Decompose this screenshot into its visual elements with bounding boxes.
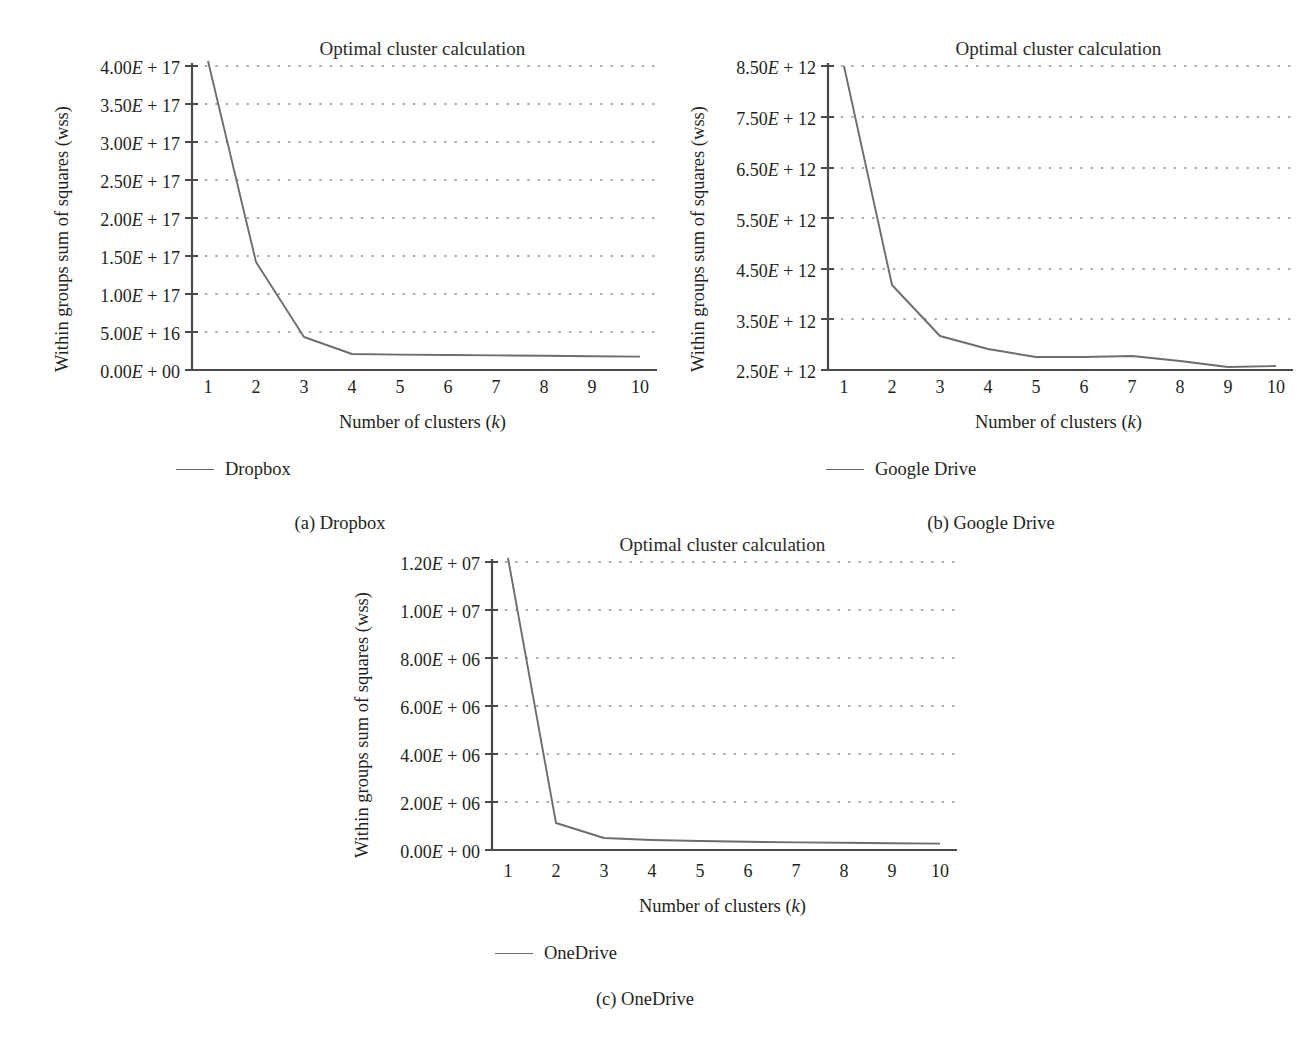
y-tick-label: 3.00E + 17 xyxy=(75,135,180,153)
x-tick-label: 1 xyxy=(824,378,864,396)
y-tick-label: 2.50E + 17 xyxy=(75,173,180,191)
y-tick-label: 3.50E + 17 xyxy=(75,97,180,115)
legend-line-swatch-icon xyxy=(826,469,864,470)
chart-title-dropbox: Optimal cluster calculation xyxy=(190,38,655,60)
y-tick-label: 2.00E + 17 xyxy=(75,211,180,229)
x-tick-label: 8 xyxy=(524,378,564,396)
y-tick-label: 4.50E + 12 xyxy=(711,262,816,280)
x-axis-title-variable: k xyxy=(1128,412,1136,432)
y-tick-label: 5.00E + 16 xyxy=(75,325,180,343)
y-tick-label: 2.50E + 12 xyxy=(711,363,816,381)
x-tick-label: 10 xyxy=(920,862,960,880)
x-tick-label: 9 xyxy=(872,862,912,880)
y-tick-label: 1.50E + 17 xyxy=(75,249,180,267)
x-axis-title-prefix: Number of clusters ( xyxy=(975,412,1128,432)
y-axis-title-google-drive: Within groups sum of squares (wss) xyxy=(688,106,709,372)
legend-onedrive: OneDrive xyxy=(495,943,617,964)
x-tick-label: 2 xyxy=(236,378,276,396)
x-tick-label: 2 xyxy=(872,378,912,396)
x-axis-title-google-drive: Number of clusters (k) xyxy=(826,412,1291,433)
legend-google-drive: Google Drive xyxy=(826,459,976,480)
x-tick-label: 4 xyxy=(632,862,672,880)
x-tick-label: 7 xyxy=(1112,378,1152,396)
x-axis-title-onedrive: Number of clusters (k) xyxy=(490,896,955,917)
y-tick-label: 4.00E + 17 xyxy=(75,59,180,77)
x-axis-title-suffix: ) xyxy=(1136,412,1142,432)
chart-title-google-drive: Optimal cluster calculation xyxy=(826,38,1291,60)
y-tick-label: 8.50E + 12 xyxy=(711,59,816,77)
y-tick-label: 1.00E + 17 xyxy=(75,287,180,305)
x-tick-label: 9 xyxy=(572,378,612,396)
y-tick-label: 5.50E + 12 xyxy=(711,212,816,230)
x-axis-title-suffix: ) xyxy=(500,412,506,432)
x-tick-label: 4 xyxy=(968,378,1008,396)
x-axis-title-suffix: ) xyxy=(800,896,806,916)
y-tick-label: 0.00E + 00 xyxy=(375,843,480,861)
y-axis-title-dropbox: Within groups sum of squares (wss) xyxy=(52,106,73,372)
x-tick-label: 8 xyxy=(1160,378,1200,396)
x-tick-label: 7 xyxy=(776,862,816,880)
x-tick-label: 5 xyxy=(1016,378,1056,396)
y-tick-label: 6.50E + 12 xyxy=(711,161,816,179)
x-axis-title-variable: k xyxy=(792,896,800,916)
x-tick-label: 1 xyxy=(488,862,528,880)
panel-onedrive: Optimal cluster calculation Within group… xyxy=(300,500,980,1040)
y-tick-label: 6.00E + 06 xyxy=(375,699,480,717)
chart-title-onedrive: Optimal cluster calculation xyxy=(490,534,955,556)
x-tick-label: 8 xyxy=(824,862,864,880)
x-tick-label: 5 xyxy=(680,862,720,880)
x-tick-label: 4 xyxy=(332,378,372,396)
x-tick-label: 2 xyxy=(536,862,576,880)
x-tick-label: 1 xyxy=(188,378,228,396)
y-tick-label: 8.00E + 06 xyxy=(375,651,480,669)
x-tick-label: 5 xyxy=(380,378,420,396)
panel-caption-onedrive: (c) OneDrive xyxy=(490,989,800,1010)
panel-google-drive: Optimal cluster calculation Within group… xyxy=(636,0,1316,530)
y-tick-label: 7.50E + 12 xyxy=(711,110,816,128)
x-tick-label: 3 xyxy=(284,378,324,396)
legend-label: Google Drive xyxy=(875,459,976,480)
legend-dropbox: Dropbox xyxy=(176,459,291,480)
plot-area-dropbox xyxy=(185,58,660,383)
x-tick-label: 7 xyxy=(476,378,516,396)
y-tick-label: 3.50E + 12 xyxy=(711,313,816,331)
x-tick-label: 6 xyxy=(728,862,768,880)
legend-line-swatch-icon xyxy=(176,469,214,470)
y-tick-label: 1.20E + 07 xyxy=(375,555,480,573)
legend-label: OneDrive xyxy=(544,943,617,964)
x-axis-title-variable: k xyxy=(492,412,500,432)
x-tick-label: 3 xyxy=(920,378,960,396)
x-tick-label: 6 xyxy=(428,378,468,396)
legend-label: Dropbox xyxy=(225,459,291,480)
plot-area-google-drive xyxy=(821,58,1296,383)
plot-area-onedrive xyxy=(485,554,960,864)
legend-line-swatch-icon xyxy=(495,953,533,954)
y-tick-label: 1.00E + 07 xyxy=(375,603,480,621)
y-tick-label: 4.00E + 06 xyxy=(375,747,480,765)
x-axis-title-prefix: Number of clusters ( xyxy=(639,896,792,916)
y-tick-label: 2.00E + 06 xyxy=(375,795,480,813)
x-tick-label: 9 xyxy=(1208,378,1248,396)
y-axis-title-onedrive: Within groups sum of squares (wss) xyxy=(352,592,373,858)
y-tick-label: 0.00E + 00 xyxy=(75,363,180,381)
x-axis-title-dropbox: Number of clusters (k) xyxy=(190,412,655,433)
x-tick-label: 10 xyxy=(1256,378,1296,396)
panel-dropbox: Optimal cluster calculation Within group… xyxy=(0,0,680,530)
x-tick-label: 6 xyxy=(1064,378,1104,396)
x-axis-title-prefix: Number of clusters ( xyxy=(339,412,492,432)
x-tick-label: 3 xyxy=(584,862,624,880)
